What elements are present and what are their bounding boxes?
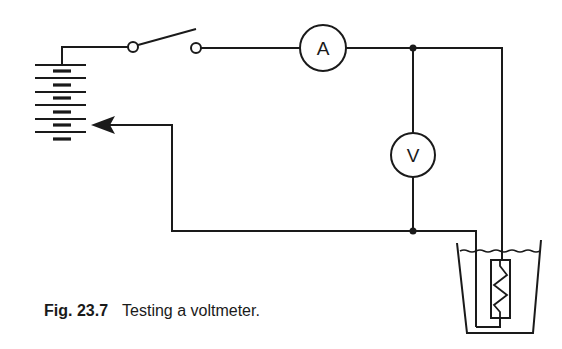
heater-coil <box>491 260 510 318</box>
circuit-diagram: A V <box>0 0 562 349</box>
ammeter: A <box>300 25 346 71</box>
battery <box>35 65 86 139</box>
figure-number: Fig. 23.7 <box>44 302 108 319</box>
figure-caption: Fig. 23.7Testing a voltmeter. <box>44 302 260 320</box>
voltmeter: V <box>391 133 435 177</box>
wire-heater-bottom <box>476 318 500 327</box>
wire-battery-to-switch <box>62 47 128 65</box>
figure-title: Testing a voltmeter. <box>122 302 260 319</box>
liquid-surface <box>460 250 540 252</box>
switch <box>128 29 201 53</box>
svg-text:A: A <box>317 38 330 59</box>
svg-text:V: V <box>407 145 420 166</box>
